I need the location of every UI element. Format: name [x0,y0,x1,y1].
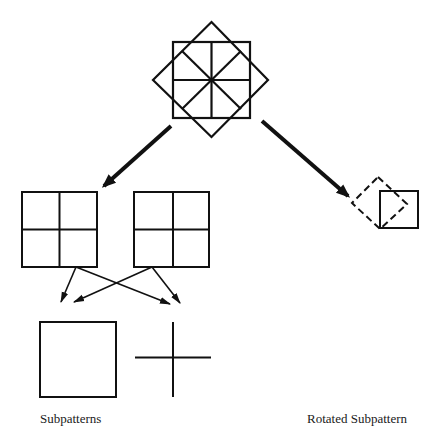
arrow-to-grid [104,126,171,186]
grid-left [22,192,97,267]
thick-arrows [104,121,348,196]
subpattern-cross [135,322,211,397]
thin-arrows [61,267,180,304]
composite-pattern [153,22,268,137]
rotated-subpattern-label: Rotated Subpattern [307,411,407,427]
pattern-diagram [0,0,437,436]
subpattern-square [40,322,116,397]
grid-middle [134,192,209,267]
rotated-subpattern [352,177,418,229]
arrow-to-rotated [262,121,348,196]
subpatterns-label: Subpatterns [40,411,101,427]
